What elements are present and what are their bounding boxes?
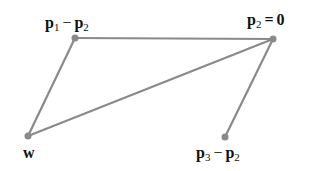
point-p1-minus-p2 (72, 35, 79, 42)
edge-p2-p3mp2 (225, 39, 273, 137)
label-subscript: 1 (54, 21, 60, 33)
label-term: p (74, 14, 83, 31)
label-p3-minus-p2: p3−p2 (196, 145, 240, 163)
label-operator: − (62, 14, 71, 31)
label-p1-minus-p2: p1−p2 (45, 15, 89, 33)
label-term: p (225, 144, 234, 161)
edges (28, 38, 273, 137)
point-w (25, 133, 32, 140)
label-term: p (247, 11, 256, 28)
point-p3-minus-p2 (222, 134, 229, 141)
label-subscript: 2 (234, 151, 240, 163)
label-subscript: 2 (83, 21, 89, 33)
label-operator: = (264, 11, 273, 28)
label-operator: − (213, 144, 222, 161)
label-w: w (23, 145, 35, 161)
label-p2-equals-0: p2=0 (247, 12, 285, 30)
label-term: p (196, 144, 205, 161)
label-subscript: 2 (256, 18, 262, 30)
edge-p1mp2-p2 (75, 38, 273, 39)
label-term: p (45, 14, 54, 31)
edge-w-p2 (28, 39, 273, 136)
label-subscript: 3 (205, 151, 211, 163)
point-p2 (270, 36, 277, 43)
label-term: w (23, 144, 35, 161)
label-term: 0 (277, 11, 285, 28)
